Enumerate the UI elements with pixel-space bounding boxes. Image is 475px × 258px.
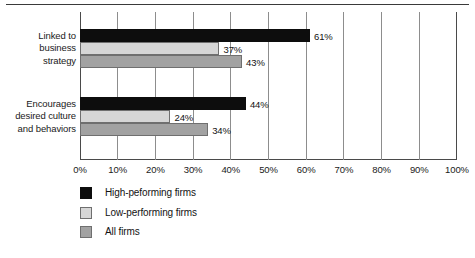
plot-right-border [456,12,457,160]
x-tick-label-60: 60% [297,164,316,175]
bar [80,97,246,110]
bar [80,123,208,136]
x-tick-label-90: 90% [410,164,429,175]
bar-value-label: 34% [212,124,231,137]
bar-value-label: 61% [314,30,333,43]
gridline-70 [343,12,344,160]
category-label-line: business [0,42,76,55]
category-label-line: and behaviors [0,123,76,136]
bar [80,110,170,123]
x-tick-label-10: 10% [108,164,127,175]
gridline-90 [419,12,420,160]
x-tick-label-70: 70% [335,164,354,175]
x-tick-label-0: 0% [73,164,87,175]
x-tick-label-30: 30% [184,164,203,175]
legend-item-label: Low-performing firms [105,206,197,220]
gridline-80 [381,12,382,160]
legend-item-label: All firms [105,225,140,239]
category-label: Encouragesdesired cultureand behaviors [0,98,76,136]
category-label: Linked tobusinessstrategy [0,30,76,68]
x-tick-label-100: 100% [445,164,469,175]
bar-value-label: 44% [250,98,269,111]
bar [80,42,219,55]
x-tick-label-40: 40% [221,164,240,175]
category-label-line: strategy [0,55,76,68]
bar-value-label: 43% [246,56,265,69]
bar-value-label: 37% [223,43,242,56]
bar [80,29,310,42]
black-swatch [80,187,92,199]
x-tick-label-80: 80% [372,164,391,175]
category-label-line: Encourages [0,98,76,111]
bar [80,55,242,68]
light-gray-swatch [80,207,92,219]
x-tick-label-50: 50% [259,164,278,175]
x-tick-label-20: 20% [146,164,165,175]
top-horizontal-rule [6,4,469,5]
medium-gray-swatch [80,226,92,238]
bar-value-label: 24% [174,111,193,124]
legend-item-label: High-peforming firms [105,186,196,200]
category-label-line: Linked to [0,30,76,43]
bar-chart-figure: 61%37%43%44%24%34% Linked tobusinessstra… [0,0,475,258]
category-label-line: desired culture [0,110,76,123]
